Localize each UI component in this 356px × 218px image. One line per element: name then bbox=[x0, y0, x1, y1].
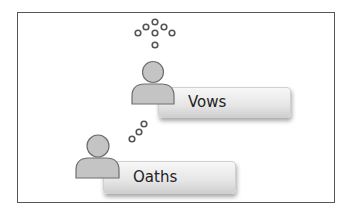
thought-dots-icon bbox=[135, 19, 175, 48]
thought-dots-icon bbox=[129, 121, 147, 142]
person-icon bbox=[132, 62, 174, 105]
diagram-graphics bbox=[0, 0, 356, 218]
person-icon bbox=[76, 135, 119, 178]
